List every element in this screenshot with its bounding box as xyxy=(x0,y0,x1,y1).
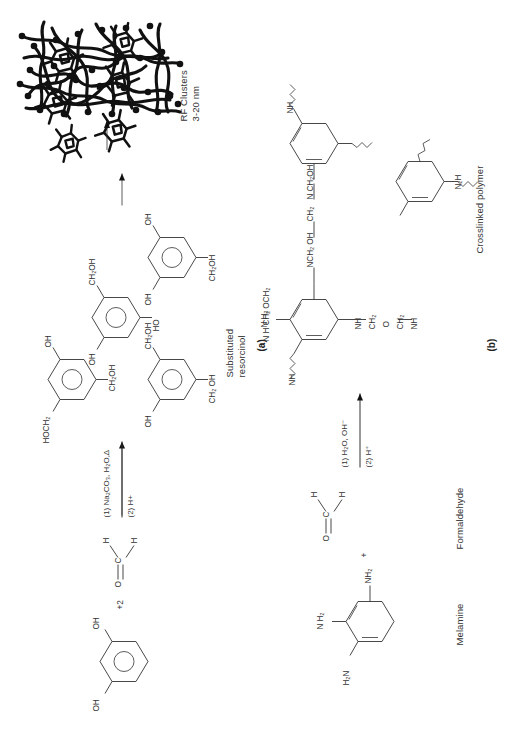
cp-nh2-top: N H₂ xyxy=(260,310,269,327)
plus-sign-b: + xyxy=(360,552,369,557)
rotated-figure-container: OH OH +2 O C H H (1) Na₂CO₃, H₂O,Δ (2) H… xyxy=(0,0,506,729)
crosslinked-gel-illustration xyxy=(0,0,250,729)
conditions-b-line1: (1) H₂O, OH⁻ xyxy=(340,419,349,467)
crosslinked-gel-panel xyxy=(0,0,250,729)
cp-nch2oh-1: NCH₂ OH xyxy=(306,232,315,267)
caption-formaldehyde: Formaldehyde xyxy=(454,487,465,549)
formaldehyde-b-o: O xyxy=(322,535,331,541)
caption-melamine: Melamine xyxy=(454,603,465,645)
cp-n2h: N₂H xyxy=(454,174,463,189)
conditions-b-line2: (2) H⁺ xyxy=(364,445,373,467)
formaldehyde-b-h-top: H xyxy=(310,491,319,497)
melamine-nh2-right: NH₂ xyxy=(364,568,373,583)
panel-b-label: (b) xyxy=(486,338,497,351)
formaldehyde-b-c: C xyxy=(322,511,331,517)
melamine-h2n: H₂N xyxy=(342,670,351,685)
cp-nh-bridge: NH xyxy=(354,317,363,329)
figure-canvas: OH OH +2 O C H H (1) Na₂CO₃, H₂O,Δ (2) H… xyxy=(0,0,506,729)
cp-nh-bridge-2: NH xyxy=(410,317,419,329)
cp-nch2oh-2: N CH₂OH xyxy=(306,164,315,199)
cp-ch2-bridge-2: CH₂ xyxy=(396,314,405,329)
melamine-nh2-top: N H₂ xyxy=(316,612,325,629)
cp-o-bridge: O xyxy=(382,321,391,327)
cp-ch2: CH₂ xyxy=(306,206,315,221)
formaldehyde-b-h-bottom: H xyxy=(338,491,347,497)
panel-b: H₂N N H₂ NH₂ + O C H H (1) H₂O, OH⁻ (2) … xyxy=(250,0,506,729)
caption-crosslinked-polymer: Crosslinked polymer xyxy=(474,165,485,253)
cp-nh-left: NH xyxy=(288,373,297,385)
cp-nh-wavy: NH xyxy=(286,101,295,113)
cp-ch2-bridge: CH₂ xyxy=(368,314,377,329)
